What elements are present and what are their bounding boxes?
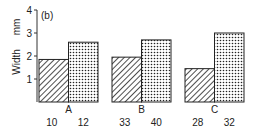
panel-label: (b) [41, 10, 53, 21]
y-tick-label: 1 [26, 74, 32, 85]
bars: 1012A3340B2832C [39, 33, 244, 128]
y-axis-unit: mm [11, 19, 22, 36]
dotted-bar [69, 42, 99, 102]
bar-chart: 1234 Width mm (b) 1012A3340B2832C [0, 0, 260, 131]
bar-sublabel: 10 [46, 117, 58, 128]
y-axis-label: Width [11, 49, 22, 75]
bar-sublabel: 33 [119, 117, 131, 128]
y-axis: 1234 [26, 5, 37, 103]
y-tick-label: 3 [26, 28, 32, 39]
hatched-bar [39, 59, 69, 102]
dotted-bar [142, 40, 172, 102]
hatched-bar [112, 57, 142, 102]
dotted-bar [215, 33, 245, 102]
bar-group-b: 3340B [112, 40, 171, 128]
y-tick-label: 2 [26, 51, 32, 62]
bar-sublabel: 28 [192, 117, 204, 128]
bar-sublabel: 12 [78, 117, 90, 128]
group-label: A [65, 104, 72, 115]
y-tick-label: 4 [26, 5, 32, 16]
bar-sublabel: 32 [224, 117, 236, 128]
group-label: C [211, 104, 218, 115]
bar-group-a: 1012A [39, 42, 98, 128]
hatched-bar [185, 69, 215, 102]
bar-sublabel: 40 [151, 117, 163, 128]
bar-group-c: 2832C [185, 33, 244, 128]
group-label: B [138, 104, 145, 115]
